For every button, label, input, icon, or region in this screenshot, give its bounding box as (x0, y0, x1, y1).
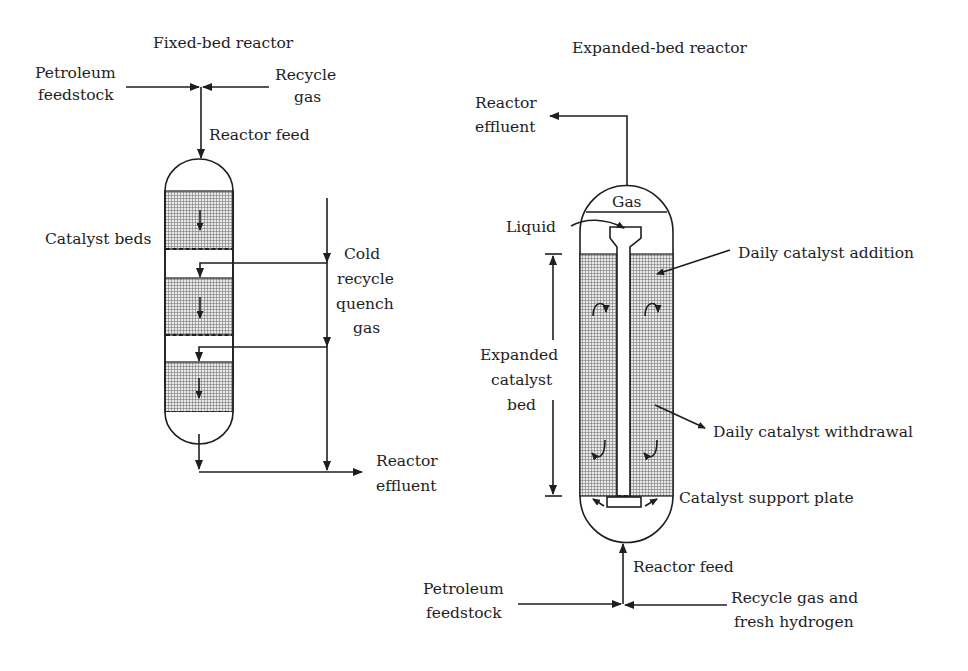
quench-label-4: gas (353, 319, 380, 337)
reactor-diagram: Fixed-bed reactor Petroleum feedstock Re… (0, 0, 968, 671)
fixed-effluent-label-2: effluent (376, 477, 437, 495)
catalyst-beds-label: Catalyst beds (45, 230, 151, 248)
quench-label-2: recycle (337, 270, 394, 288)
catalyst-bed-2 (165, 278, 233, 335)
expanded-bed-left (580, 254, 617, 496)
fixed-recycle-label-2: gas (294, 88, 321, 106)
catalyst-support-plate (607, 497, 641, 507)
expanded-bed-label-3: bed (507, 396, 536, 414)
expanded-recycle-label-1: Recycle gas and (731, 589, 858, 607)
expanded-effluent-line (550, 116, 627, 186)
expanded-recycle-label-2: fresh hydrogen (734, 613, 854, 631)
gas-label: Gas (612, 193, 642, 211)
catalyst-bed-1 (165, 191, 233, 249)
catalyst-addition-label: Daily catalyst addition (738, 244, 914, 262)
fixed-petroleum-label-2: feedstock (38, 86, 114, 104)
fixed-petroleum-label-1: Petroleum (35, 64, 116, 82)
expanded-reactor-feed-label: Reactor feed (633, 558, 734, 576)
quench-label-1: Cold (344, 245, 380, 263)
expanded-bed-right (630, 254, 673, 496)
fixed-reactor-feed-label: Reactor feed (209, 126, 310, 144)
expanded-bed-label-2: catalyst (491, 371, 553, 389)
expanded-petroleum-label-2: feedstock (426, 604, 502, 622)
expanded-effluent-label-1: Reactor (475, 94, 537, 112)
catalyst-withdrawal-label: Daily catalyst withdrawal (713, 423, 913, 441)
fixed-bed-reactor: Fixed-bed reactor Petroleum feedstock Re… (35, 34, 438, 495)
expanded-bed-title: Expanded-bed reactor (572, 39, 747, 57)
expanded-bed-reactor: Expanded-bed reactor Reactor effluent Ga… (423, 39, 914, 631)
fixed-recycle-label-1: Recycle (275, 66, 336, 84)
quench-label-3: quench (336, 295, 394, 313)
expanded-effluent-label-2: effluent (475, 118, 536, 136)
support-plate-label: Catalyst support plate (679, 489, 854, 507)
expanded-petroleum-label-1: Petroleum (423, 580, 504, 598)
fixed-bed-title: Fixed-bed reactor (153, 34, 294, 52)
liquid-label: Liquid (506, 218, 556, 236)
expanded-bed-label-1: Expanded (480, 346, 558, 364)
fixed-effluent-label-1: Reactor (376, 452, 438, 470)
